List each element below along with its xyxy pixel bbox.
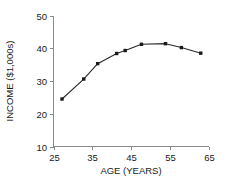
y-axis-tick-labels: 1020304050 — [36, 11, 47, 153]
y-tick-label-30: 30 — [36, 76, 47, 87]
data-point-1 — [82, 77, 85, 80]
x-tick-label-35: 35 — [87, 152, 98, 163]
y-axis-title: INCOME ($1,000s) — [4, 41, 15, 122]
y-tick-label-10: 10 — [36, 142, 47, 153]
x-axis-group: 2535455565 — [49, 147, 215, 163]
data-point-3 — [115, 52, 118, 55]
data-point-6 — [164, 42, 167, 45]
chart-canvas: 1020304050 2535455565 AGE (YEARS) INCOME… — [0, 0, 226, 183]
x-axis-title: AGE (YEARS) — [100, 165, 161, 176]
y-tick-label-40: 40 — [36, 43, 47, 54]
y-tick-label-20: 20 — [36, 109, 47, 120]
y-axis-group: 1020304050 — [36, 11, 53, 153]
x-tick-label-45: 45 — [126, 152, 137, 163]
y-tick-label-50: 50 — [36, 11, 47, 22]
data-series-group — [60, 42, 202, 101]
data-point-5 — [140, 43, 143, 46]
data-point-8 — [199, 51, 202, 54]
x-tick-label-25: 25 — [49, 152, 60, 163]
data-point-4 — [123, 49, 126, 52]
income-by-age-chart: 1020304050 2535455565 AGE (YEARS) INCOME… — [0, 0, 226, 183]
series-line-income — [62, 44, 201, 99]
data-point-2 — [96, 62, 99, 65]
x-tick-label-55: 55 — [165, 152, 176, 163]
series-markers-income — [60, 42, 202, 101]
x-axis-tick-labels: 2535455565 — [49, 152, 215, 163]
x-tick-label-65: 65 — [204, 152, 215, 163]
data-point-7 — [180, 46, 183, 49]
data-point-0 — [60, 97, 63, 100]
